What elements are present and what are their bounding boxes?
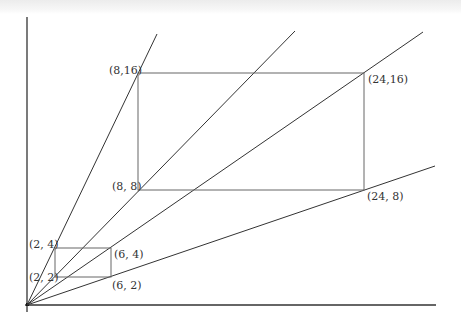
large-rectangle: [138, 73, 364, 190]
ray-slope-0.25: [27, 166, 435, 305]
label-24-16: (24,16): [368, 73, 408, 86]
diagram-canvas: (8,16) (24,16) (8, 8) (24, 8) (2, 4) (6,…: [0, 0, 461, 325]
label-8-8: (8, 8): [112, 180, 142, 193]
label-6-2: (6, 2): [112, 279, 142, 292]
label-2-2: (2, 2): [29, 271, 59, 284]
label-24-8: (24, 8): [367, 190, 404, 203]
label-2-4: (2, 4): [29, 238, 59, 251]
label-8-16: (8,16): [109, 64, 142, 77]
ray-slope-1: [27, 31, 295, 305]
label-6-4: (6, 4): [114, 248, 144, 261]
